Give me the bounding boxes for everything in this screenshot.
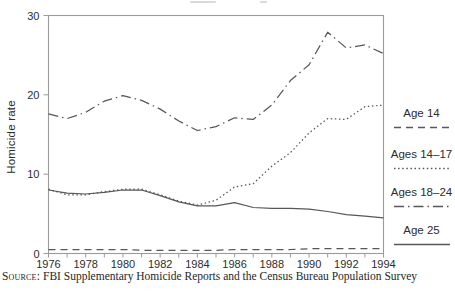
source-text: FBI Supplementary Homicide Reports and t… bbox=[40, 270, 417, 282]
legend-line-sample-dashdot bbox=[393, 203, 451, 210]
plot-frame bbox=[49, 16, 384, 254]
legend-entry-ages-14-17: Ages 14–17 bbox=[388, 148, 455, 172]
x-tick-label: 1978 bbox=[73, 258, 97, 270]
legend-line-sample-dotted bbox=[393, 165, 451, 172]
legend-line-sample-dashed bbox=[393, 124, 451, 131]
legend-entry-ages-18-24: Ages 18–24 bbox=[388, 186, 455, 210]
legend-line-sample-solid bbox=[393, 241, 451, 248]
source-note: Source: FBI Supplementary Homicide Repor… bbox=[2, 270, 455, 282]
y-tick-label: 20 bbox=[27, 89, 39, 101]
x-tick-label: 1982 bbox=[148, 258, 172, 270]
legend-label: Ages 14–17 bbox=[388, 148, 455, 160]
y-tick-label: 30 bbox=[27, 10, 39, 22]
legend-label: Age 25 bbox=[388, 224, 455, 236]
series-line-dashed bbox=[49, 249, 384, 251]
x-tick-label: 1976 bbox=[36, 258, 60, 270]
x-tick-label: 1992 bbox=[334, 258, 358, 270]
series-line-dashdot bbox=[49, 32, 384, 130]
series-line-dotted bbox=[49, 105, 384, 205]
y-tick-label: 10 bbox=[27, 168, 39, 180]
legend-label: Ages 18–24 bbox=[388, 186, 455, 198]
x-tick-label: 1984 bbox=[185, 258, 209, 270]
legend-entry-age-14: Age 14 bbox=[388, 107, 455, 131]
x-tick-label: 1988 bbox=[260, 258, 284, 270]
x-tick-label: 1990 bbox=[297, 258, 321, 270]
y-axis-title: Homicide rate bbox=[5, 100, 17, 174]
legend: Age 14 Ages 14–17 Ages 18–24 Age 25 bbox=[388, 0, 455, 292]
series-line-solid bbox=[49, 190, 384, 218]
x-tick-label: 1986 bbox=[222, 258, 246, 270]
source-label: Source: bbox=[2, 270, 40, 282]
legend-entry-age-25: Age 25 bbox=[388, 224, 455, 248]
y-tick-label: 0 bbox=[33, 248, 39, 260]
legend-label: Age 14 bbox=[388, 107, 455, 119]
x-tick-label: 1980 bbox=[111, 258, 135, 270]
homicide-rate-chart: 1976197819801982198419861988199019921994… bbox=[0, 0, 455, 292]
homicide-rate-figure: 1976197819801982198419861988199019921994… bbox=[0, 0, 455, 292]
